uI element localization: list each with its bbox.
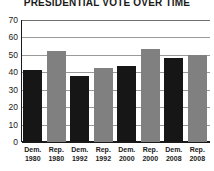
x-label-year: 2000: [114, 154, 140, 163]
x-axis-label-rep-2008: Rep.2008: [184, 145, 210, 163]
x-label-year: 1992: [67, 154, 93, 163]
bar-dem-2008: [164, 58, 183, 142]
x-axis-label-dem-2008: Dem.2008: [161, 145, 187, 163]
x-axis-label-rep-1980: Rep.1980: [43, 145, 69, 163]
bar-dem-2000: [117, 66, 136, 142]
y-axis-label-0: 0: [13, 138, 18, 147]
x-label-year: 2008: [161, 154, 187, 163]
y-axis-label-60: 60: [9, 33, 18, 42]
x-axis: Dem.1980Rep.1980Dem.1992Rep.1992Dem.2000…: [21, 145, 209, 171]
bar-chart: PRESIDENTIAL VOTE OVER TIME 010203040506…: [0, 0, 214, 171]
bar-rep-2000: [141, 49, 160, 142]
x-label-party: Rep.: [184, 145, 210, 154]
x-label-year: 1980: [20, 154, 46, 163]
bar-rep-1980: [47, 51, 66, 142]
x-label-year: 2000: [137, 154, 163, 163]
x-axis-label-dem-2000: Dem.2000: [114, 145, 140, 163]
y-axis-label-40: 40: [9, 68, 18, 77]
y-axis-label-10: 10: [9, 121, 18, 130]
x-axis-label-dem-1992: Dem.1992: [67, 145, 93, 163]
x-axis-label-dem-1980: Dem.1980: [20, 145, 46, 163]
y-axis-label-70: 70: [9, 16, 18, 25]
chart-title: PRESIDENTIAL VOTE OVER TIME: [0, 0, 214, 8]
y-axis-label-30: 30: [9, 86, 18, 95]
x-label-party: Rep.: [137, 145, 163, 154]
x-label-party: Rep.: [90, 145, 116, 154]
x-label-party: Rep.: [43, 145, 69, 154]
bar-series: [21, 20, 209, 142]
x-label-year: 2008: [184, 154, 210, 163]
x-label-party: Dem.: [161, 145, 187, 154]
x-label-party: Dem.: [20, 145, 46, 154]
bar-rep-2008: [188, 55, 207, 142]
bar-rep-1992: [94, 68, 113, 142]
bar-dem-1992: [70, 76, 89, 142]
x-axis-label-rep-2000: Rep.2000: [137, 145, 163, 163]
x-label-year: 1992: [90, 154, 116, 163]
x-axis-label-rep-1992: Rep.1992: [90, 145, 116, 163]
y-axis: 010203040506070: [0, 0, 21, 171]
y-axis-label-20: 20: [9, 103, 18, 112]
x-label-party: Dem.: [114, 145, 140, 154]
x-label-party: Dem.: [67, 145, 93, 154]
x-label-year: 1980: [43, 154, 69, 163]
y-axis-label-50: 50: [9, 51, 18, 60]
bar-dem-1980: [23, 70, 42, 142]
